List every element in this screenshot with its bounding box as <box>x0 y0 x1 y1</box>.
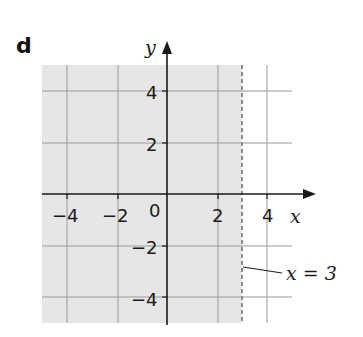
x-tick-label: 2 <box>212 205 223 226</box>
y-tick-label: −4 <box>131 289 158 310</box>
boundary-annotation: x = 3 <box>286 262 337 284</box>
y-tick-label: 4 <box>146 82 157 103</box>
y-axis-label: y <box>144 36 156 58</box>
annotation-leader <box>243 267 282 273</box>
y-tick-label: −2 <box>131 237 158 258</box>
x-axis-label: x <box>290 205 301 227</box>
y-axis-arrow-icon <box>162 41 172 54</box>
x-tick-label: −4 <box>52 205 79 226</box>
x-tick-label: −2 <box>102 205 129 226</box>
part-label: d <box>16 33 32 58</box>
x-axis-arrow-icon <box>303 189 316 199</box>
y-tick-label: 2 <box>146 134 157 155</box>
x-tick-label: 4 <box>262 205 273 226</box>
coordinate-graph: d y x −4 −2 0 2 4 4 2 −2 −4 x = 3 <box>0 0 363 337</box>
origin-label: 0 <box>149 200 160 221</box>
